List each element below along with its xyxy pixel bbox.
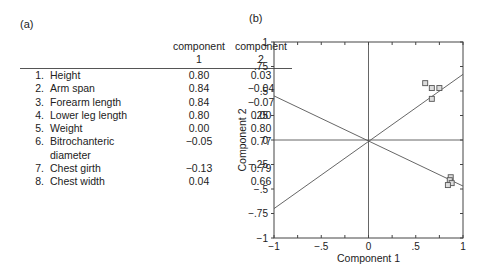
x-tick-label: 0 bbox=[366, 241, 372, 252]
y-tick-label: −1 bbox=[257, 233, 269, 244]
y-tick-label: .75 bbox=[254, 61, 268, 72]
data-point-marker bbox=[429, 86, 434, 91]
y-tick-label: 0 bbox=[262, 135, 268, 146]
x-tick-label: −1 bbox=[268, 241, 280, 252]
loadings-plot: 1.75.5.250−.25−.5−.75−1−1−.50.51Componen… bbox=[0, 0, 485, 271]
y-tick-label: .25 bbox=[254, 110, 268, 121]
y-tick-label: −.25 bbox=[248, 159, 268, 170]
data-point-marker bbox=[429, 96, 434, 101]
data-point-marker bbox=[437, 86, 442, 91]
x-tick-label: 1 bbox=[460, 241, 466, 252]
y-axis-label: Component 2 bbox=[236, 108, 248, 171]
y-tick-label: 1 bbox=[262, 37, 268, 48]
x-axis-label: Component 1 bbox=[337, 252, 400, 264]
y-tick-label: −.5 bbox=[254, 184, 269, 195]
y-tick-label: −.75 bbox=[248, 208, 268, 219]
y-tick-label: .5 bbox=[260, 86, 269, 97]
x-tick-label: −.5 bbox=[314, 241, 329, 252]
data-point-marker bbox=[445, 183, 450, 188]
data-point-marker bbox=[423, 81, 428, 86]
x-tick-label: .5 bbox=[412, 241, 421, 252]
